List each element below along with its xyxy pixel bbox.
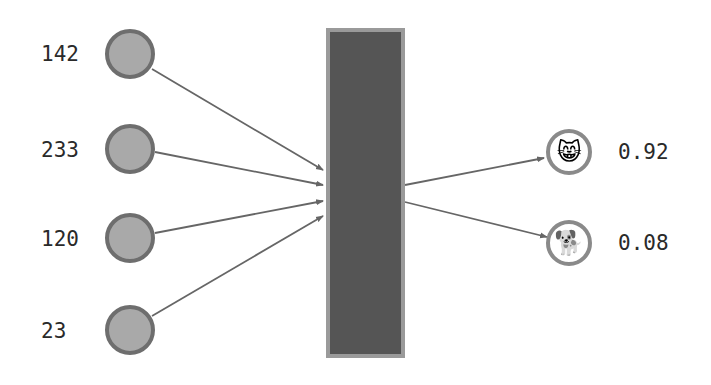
input-node-2 bbox=[107, 126, 153, 172]
input-arrow-4 bbox=[152, 216, 323, 316]
input-value-4: 23 bbox=[41, 319, 66, 343]
output-arrow-cat bbox=[405, 158, 544, 185]
input-value-2: 233 bbox=[41, 138, 79, 162]
input-node-4 bbox=[107, 307, 153, 353]
model-block bbox=[328, 30, 403, 356]
input-node-3 bbox=[107, 215, 153, 261]
grinning-cat-icon: 😸 bbox=[551, 134, 587, 170]
neural-network-diagram bbox=[0, 0, 711, 385]
input-value-3: 120 bbox=[41, 227, 79, 251]
output-arrow-dog bbox=[405, 202, 547, 237]
dog-icon: 🐕 bbox=[551, 225, 587, 261]
input-arrow-3 bbox=[155, 201, 323, 233]
input-arrow-2 bbox=[155, 152, 323, 185]
input-value-1: 142 bbox=[41, 42, 79, 66]
input-node-1 bbox=[107, 31, 153, 77]
input-arrow-1 bbox=[152, 69, 323, 170]
output-probability-dog: 0.08 bbox=[618, 231, 669, 255]
output-probability-cat: 0.92 bbox=[618, 140, 669, 164]
